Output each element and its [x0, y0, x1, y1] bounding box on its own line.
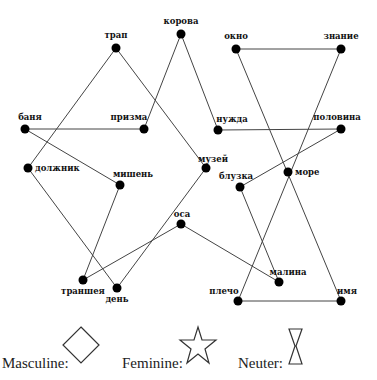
- legend-masculine-label: Masculine:: [2, 355, 69, 371]
- edge-banya-mishen: [25, 129, 120, 185]
- edge-mishen-transheya: [83, 185, 120, 280]
- node-banya: баня: [18, 112, 42, 134]
- edge-korova-nuzhda: [181, 34, 218, 130]
- node-label: должник: [35, 163, 80, 173]
- node-trap: трап: [105, 30, 128, 53]
- node-label: корова: [164, 16, 199, 26]
- node-label: море: [295, 167, 320, 177]
- node-dot: [284, 168, 293, 177]
- node-label: мишень: [113, 169, 153, 179]
- edge-osa-malina: [181, 224, 279, 282]
- edge-polovina-bluzka: [240, 129, 341, 187]
- node-dot: [232, 45, 241, 54]
- node-transheya: траншея: [61, 276, 105, 297]
- node-dot: [177, 220, 186, 229]
- node-dot: [337, 297, 346, 306]
- node-label: призма: [111, 112, 148, 122]
- node-osa: оса: [174, 209, 191, 229]
- edge-trap-muzey: [116, 48, 206, 168]
- node-polovina: половина: [313, 112, 361, 134]
- node-bluzka: блузка: [219, 171, 254, 192]
- node-label: знание: [323, 31, 359, 41]
- node-label: баня: [18, 112, 42, 122]
- node-label: траншея: [61, 286, 105, 296]
- node-dot: [337, 45, 346, 54]
- word-graph-diagram: трапкороваокнознаниебаняпризмануждаполов…: [0, 0, 377, 380]
- node-dolzhnik: должник: [24, 163, 81, 173]
- node-den: день: [105, 284, 128, 305]
- node-label: блузка: [219, 171, 254, 181]
- node-label: трап: [105, 30, 128, 40]
- node-dot: [140, 125, 149, 134]
- legend-feminine-label: Feminine:: [122, 355, 183, 371]
- edge-muzey-den: [117, 168, 206, 288]
- node-dot: [21, 125, 30, 134]
- node-dot: [24, 164, 33, 173]
- node-mishen: мишень: [113, 169, 153, 190]
- node-dot: [113, 284, 122, 293]
- legend-neuter-label: Neuter:: [238, 355, 283, 371]
- node-dot: [234, 297, 243, 306]
- star-icon: [180, 327, 216, 363]
- node-dot: [79, 276, 88, 285]
- node-dot: [337, 125, 346, 134]
- edge-nuzhda-polovina: [218, 129, 341, 130]
- node-plecho: плечо: [209, 286, 242, 306]
- node-dot: [116, 181, 125, 190]
- node-dot: [236, 183, 245, 192]
- node-dot: [177, 30, 186, 39]
- node-label: музей: [198, 154, 229, 164]
- edge-osa-transheya: [83, 224, 181, 280]
- node-okno: окно: [224, 31, 248, 54]
- node-label: день: [105, 294, 128, 304]
- node-label: нужда: [216, 114, 248, 124]
- node-imya: имя: [337, 286, 357, 306]
- node-prizma: призма: [111, 112, 149, 134]
- node-muzey: музей: [198, 154, 229, 173]
- edge-trap-dolzhnik: [28, 48, 116, 168]
- nodes-layer: трапкороваокнознаниебаняпризмануждаполов…: [18, 16, 361, 306]
- hourglass-icon: [289, 329, 302, 364]
- node-label: оса: [174, 209, 191, 219]
- node-more: море: [284, 167, 320, 177]
- node-dot: [202, 164, 211, 173]
- node-label: малина: [270, 267, 307, 277]
- node-dot: [112, 44, 121, 53]
- node-korova: корова: [164, 16, 199, 39]
- node-label: имя: [337, 286, 357, 296]
- node-dot: [214, 126, 223, 135]
- node-label: окно: [224, 31, 248, 41]
- node-znanie: знание: [323, 31, 359, 54]
- node-label: плечо: [209, 286, 239, 296]
- node-malina: малина: [270, 267, 307, 287]
- node-dot: [275, 278, 284, 287]
- edge-korova-prizma: [144, 34, 181, 129]
- node-nuzhda: нужда: [214, 114, 249, 135]
- legend: Masculine: Feminine: Neuter:: [2, 327, 302, 371]
- node-label: половина: [313, 112, 361, 122]
